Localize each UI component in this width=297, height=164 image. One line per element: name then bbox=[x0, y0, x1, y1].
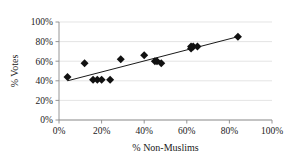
y-tick-label: 40% bbox=[36, 76, 54, 86]
data-point bbox=[98, 76, 106, 84]
chart-canvas: 0%20%40%60%80%100% 0%20%40%60%80%100% % … bbox=[0, 0, 297, 164]
x-tick-labels: 0%20%40%60%80%100% bbox=[53, 126, 284, 136]
x-tick-label: 20% bbox=[93, 126, 111, 136]
data-point bbox=[234, 33, 242, 41]
y-tick-labels: 0%20%40%60%80%100% bbox=[31, 17, 53, 125]
data-points bbox=[64, 33, 242, 84]
y-tick-label: 80% bbox=[36, 37, 54, 47]
scatter-chart: 0%20%40%60%80%100% 0%20%40%60%80%100% % … bbox=[0, 0, 297, 164]
trendline bbox=[68, 37, 238, 81]
x-tick-label: 60% bbox=[178, 126, 196, 136]
y-tick-label: 60% bbox=[36, 57, 54, 67]
y-axis-title: % Votes bbox=[9, 55, 20, 88]
data-point bbox=[140, 51, 148, 59]
x-tick-label: 0% bbox=[53, 126, 66, 136]
x-tick-label: 80% bbox=[221, 126, 239, 136]
data-point bbox=[193, 43, 201, 51]
x-tick-label: 100% bbox=[261, 126, 283, 136]
y-tick-label: 0% bbox=[40, 115, 53, 125]
data-point bbox=[106, 76, 114, 84]
data-point bbox=[117, 55, 125, 63]
y-tick-label: 20% bbox=[36, 96, 54, 106]
x-axis-title: % Non-Muslims bbox=[132, 142, 199, 153]
data-point bbox=[81, 59, 89, 67]
y-tick-label: 100% bbox=[31, 17, 53, 27]
x-tick-label: 40% bbox=[135, 126, 153, 136]
